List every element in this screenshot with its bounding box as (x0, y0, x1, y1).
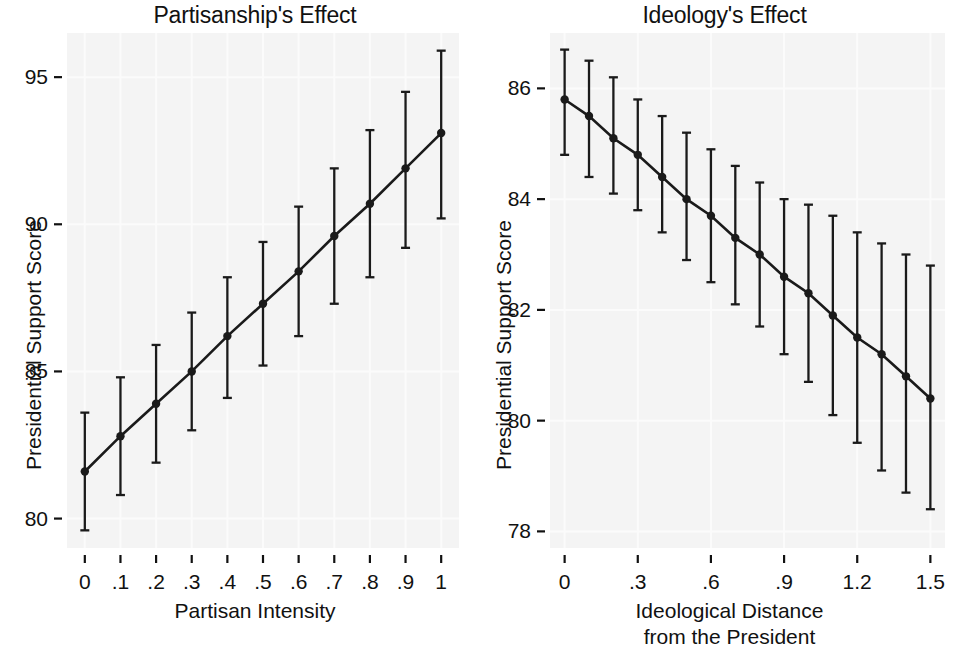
x-tick-label: .1 (112, 570, 130, 593)
y-tick-label: 86 (508, 76, 531, 99)
data-point-marker (437, 129, 445, 137)
chart-panel-ideology: Ideology's Effect Presidential Support S… (470, 0, 959, 655)
y-tick-label: 84 (508, 187, 532, 210)
data-point-marker (731, 234, 739, 242)
plot-area-right: 78808284860.3.6.91.21.5 (470, 0, 959, 655)
data-point-marker (780, 272, 788, 280)
x-tick-label: .6 (290, 570, 308, 593)
data-point-marker (188, 367, 196, 375)
data-point-marker (81, 467, 89, 475)
data-point-marker (804, 289, 812, 297)
data-point-marker (829, 311, 837, 319)
data-point-marker (634, 151, 642, 159)
x-tick-label: .4 (219, 570, 237, 593)
y-tick-label: 80 (508, 409, 531, 432)
x-tick-label: 0 (79, 570, 91, 593)
data-point-marker (707, 212, 715, 220)
data-point-marker (926, 394, 934, 402)
data-point-marker (401, 164, 409, 172)
x-tick-label: .5 (254, 570, 272, 593)
data-point-marker (259, 300, 267, 308)
data-point-marker (658, 173, 666, 181)
x-tick-label: 1.2 (843, 570, 872, 593)
x-tick-label: 0 (559, 570, 571, 593)
x-axis-label-left: Partisan Intensity (0, 598, 470, 624)
data-point-marker (682, 195, 690, 203)
x-tick-label: .7 (326, 570, 344, 593)
figure-container: Partisanship's Effect Presidential Suppo… (0, 0, 959, 655)
data-point-marker (116, 432, 124, 440)
x-tick-label: .6 (702, 570, 720, 593)
x-axis-label-right: Ideological Distance from the President (470, 598, 959, 650)
x-tick-label: .2 (147, 570, 165, 593)
plot-area-left: 808590950.1.2.3.4.5.6.7.8.91 (0, 0, 470, 655)
data-point-marker (294, 267, 302, 275)
data-point-marker (560, 95, 568, 103)
y-tick-label: 95 (25, 65, 48, 88)
data-point-marker (877, 350, 885, 358)
data-point-marker (609, 134, 617, 142)
y-tick-label: 85 (25, 359, 48, 382)
x-tick-label: 1 (435, 570, 447, 593)
x-tick-label: .3 (629, 570, 647, 593)
data-point-marker (223, 332, 231, 340)
x-tick-label: .9 (775, 570, 793, 593)
y-tick-label: 82 (508, 298, 531, 321)
x-tick-label: .8 (361, 570, 379, 593)
data-point-marker (366, 199, 374, 207)
data-point-marker (853, 333, 861, 341)
x-axis-label-right-line2: from the President (500, 624, 959, 650)
y-tick-label: 90 (25, 212, 48, 235)
chart-panel-partisanship: Partisanship's Effect Presidential Suppo… (0, 0, 470, 655)
data-point-marker (330, 232, 338, 240)
data-point-marker (585, 112, 593, 120)
x-tick-label: .9 (397, 570, 415, 593)
x-tick-label: 1.5 (916, 570, 945, 593)
data-point-marker (902, 372, 910, 380)
y-tick-label: 78 (508, 519, 531, 542)
x-tick-label: .3 (183, 570, 201, 593)
data-point-marker (152, 400, 160, 408)
x-axis-label-right-line1: Ideological Distance (500, 598, 959, 624)
data-point-marker (755, 250, 763, 258)
y-tick-label: 80 (25, 507, 48, 530)
